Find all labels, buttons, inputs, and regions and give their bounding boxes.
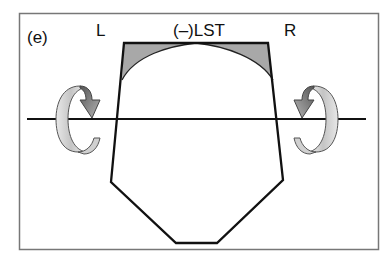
label-right: R [284, 22, 296, 39]
shaded-region-right [196, 43, 273, 80]
label-center: (–)LST [173, 22, 225, 39]
heptagon-outline [111, 43, 283, 243]
shaded-region-group [122, 43, 273, 80]
panel-label: (e) [27, 29, 48, 46]
shaded-region-left [122, 43, 196, 80]
label-left: L [96, 22, 105, 39]
